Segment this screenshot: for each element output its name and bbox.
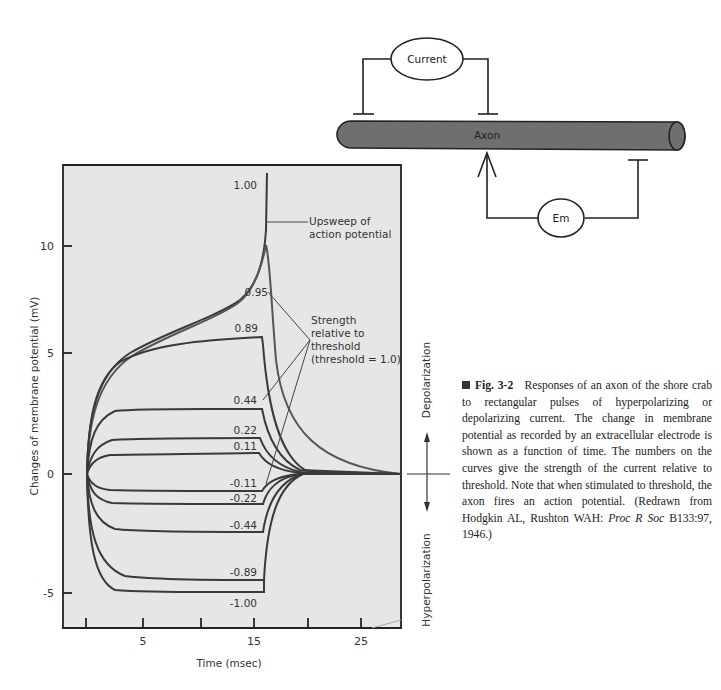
figure-canvas: Current Axon Em 10 5 0 -5 5 xyxy=(0,0,721,690)
y-tick-label: 10 xyxy=(40,240,54,253)
x-tick-label: 15 xyxy=(247,635,261,648)
curve-label: 0.44 xyxy=(234,394,258,406)
chart: 10 5 0 -5 5 15 25 Time (msec) Changes of… xyxy=(28,165,401,669)
curve-label: 1.00 xyxy=(234,179,257,191)
curve-label: 0.89 xyxy=(235,322,258,334)
em-wire-left xyxy=(487,153,538,218)
axon-label: Axon xyxy=(474,129,500,141)
figure-caption: Fig. 3-2 Responses of an axon of the sho… xyxy=(462,378,712,544)
axon-end-cap xyxy=(669,122,685,150)
curve-label: 0.11 xyxy=(234,440,257,452)
polarity-indicator: Depolarization Hyperpolarization xyxy=(407,342,450,627)
arrow-up-icon xyxy=(424,432,430,442)
curve-label: -1.00 xyxy=(230,597,257,609)
y-tick-label: 0 xyxy=(47,468,54,481)
em-label: Em xyxy=(553,212,570,224)
x-axis-title: Time (msec) xyxy=(195,657,261,669)
caption-text: Responses of an axon of the shore crab t… xyxy=(462,379,712,525)
current-wire-left xyxy=(363,59,391,114)
y-tick-label: 5 xyxy=(47,347,54,360)
curve-label: 0.95 xyxy=(245,286,268,298)
figure-number: Fig. 3-2 xyxy=(475,379,513,392)
curve-label: 0.22 xyxy=(234,424,257,436)
em-wire-right xyxy=(585,160,638,218)
y-axis-title: Changes of membrane potential (mV) xyxy=(28,297,40,496)
curve-label: -0.22 xyxy=(230,492,257,504)
caption-journal: Proc R Soc xyxy=(608,512,664,525)
y-tick-label: -5 xyxy=(43,587,54,600)
x-axis-tick-labels: 5 15 25 xyxy=(140,635,369,648)
x-tick-label: 25 xyxy=(354,635,368,648)
curve-label: -0.11 xyxy=(230,477,257,489)
arrow-down-icon xyxy=(424,502,430,512)
y-axis-tick-labels: 10 5 0 -5 xyxy=(40,240,54,600)
current-wire-right xyxy=(463,59,488,114)
caption-bullet-icon xyxy=(462,381,470,389)
hyperpolarization-label: Hyperpolarization xyxy=(420,533,432,626)
current-label: Current xyxy=(407,53,446,65)
curve-label: -0.44 xyxy=(230,519,257,531)
axon-cylinder xyxy=(337,121,685,150)
curve-label: -0.89 xyxy=(230,566,257,578)
depolarization-label: Depolarization xyxy=(420,342,432,418)
x-tick-label: 5 xyxy=(140,635,147,648)
